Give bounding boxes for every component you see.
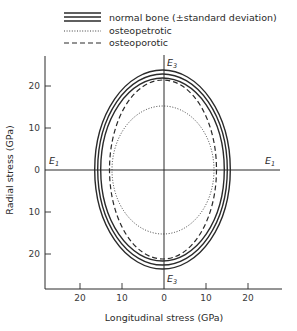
y-tick-label: 10 <box>29 123 41 133</box>
y-axis-title: Radial stress (GPa) <box>4 125 15 214</box>
y-tick-label: 10 <box>29 207 41 217</box>
axes: 20 10 0 10 20 20 10 0 10 20 Longitudinal… <box>4 55 282 323</box>
legend-item-normal-bone: normal bone (±standard deviation) <box>64 12 277 23</box>
x-tick-label: 10 <box>200 293 212 303</box>
x-tick-label: 20 <box>242 293 254 303</box>
legend-label-osteoporotic: osteoporotic <box>109 37 168 48</box>
e3-bottom-label: E3 <box>167 273 177 286</box>
y-tick-label: 20 <box>29 249 41 259</box>
y-tick-label: 0 <box>34 165 40 175</box>
e3-top-label: E3 <box>167 57 177 70</box>
e1-right-label: E1 <box>265 155 275 168</box>
x-tick-label: 20 <box>74 293 86 303</box>
x-tick-label: 0 <box>161 293 167 303</box>
x-tick-label: 10 <box>116 293 128 303</box>
legend-label-normal-bone: normal bone (±standard deviation) <box>109 12 277 23</box>
e1-left-label: E1 <box>49 155 59 168</box>
legend-item-osteopetrotic: osteopetrotic <box>64 25 172 36</box>
x-axis-title: Longitudinal stress (GPa) <box>105 312 224 323</box>
legend-item-osteoporotic: osteoporotic <box>64 37 168 48</box>
y-tick-label: 20 <box>29 81 41 91</box>
legend: normal bone (±standard deviation) osteop… <box>64 12 277 49</box>
stress-ellipse-chart: normal bone (±standard deviation) osteop… <box>0 0 297 331</box>
legend-label-osteopetrotic: osteopetrotic <box>109 25 172 36</box>
